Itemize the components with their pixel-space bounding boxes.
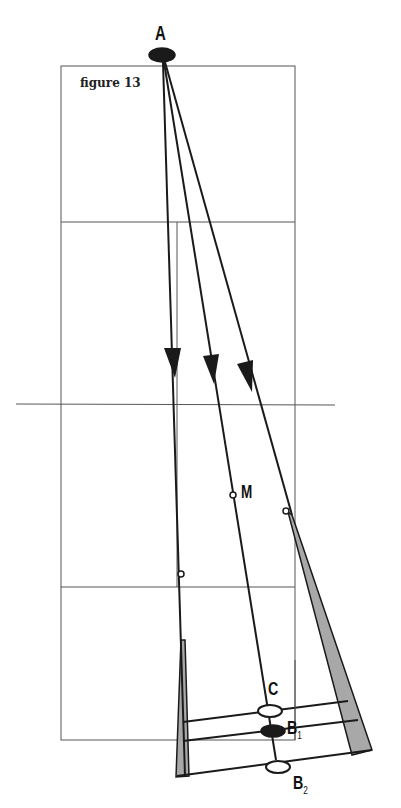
label-B1-main: B: [287, 717, 297, 738]
horizon-line: [16, 404, 335, 405]
label-B1: B1: [287, 717, 302, 741]
label-C: C: [268, 678, 278, 700]
arrow-middle-icon: [203, 354, 219, 384]
point-B1: [261, 725, 285, 737]
point-M: [230, 492, 236, 498]
rays: [163, 62, 292, 776]
point-B2: [266, 761, 290, 773]
figure-caption: figure 13: [80, 76, 141, 90]
point-left-marker: [178, 571, 184, 577]
label-M: M: [241, 482, 252, 503]
point-C: [258, 705, 282, 717]
grid-frame: [16, 66, 335, 740]
label-B2: B2: [293, 772, 308, 796]
label-B2-sub: 2: [303, 784, 308, 796]
label-B2-main: B: [293, 772, 303, 793]
arrow-right-icon: [237, 360, 253, 392]
point-A: [149, 48, 175, 62]
label-B1-sub: 1: [297, 729, 302, 741]
ray-right: [165, 62, 292, 515]
diagram-canvas: [0, 0, 401, 808]
label-A: A: [155, 22, 166, 45]
point-right-marker: [283, 508, 289, 514]
